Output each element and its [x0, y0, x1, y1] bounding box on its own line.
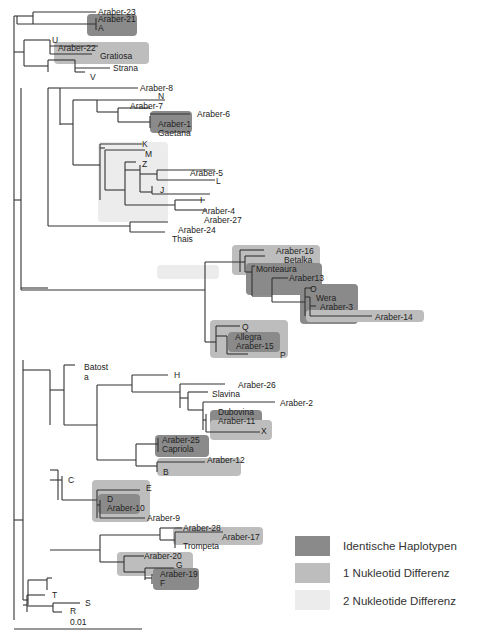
taxon-label: Araber-8 — [140, 83, 173, 93]
taxon-label: H — [174, 370, 180, 380]
legend-swatch-two-diff — [295, 590, 330, 610]
taxon-label: Araber-11 — [218, 416, 255, 426]
taxon-label: S — [85, 598, 91, 608]
taxon-label: Slavina — [212, 389, 240, 399]
taxon-label: E — [146, 483, 152, 493]
taxon-label: M — [145, 149, 152, 159]
legend: Identische Haplotypen 1 Nukleotid Differ… — [295, 536, 457, 610]
phylogenetic-tree: Araber-23Araber-21AUAraber-22GratiosaStr… — [0, 0, 486, 639]
taxon-label: Araber-3 — [320, 302, 353, 312]
taxon-label: Araber-21 — [98, 14, 136, 24]
taxon-label: N — [158, 91, 164, 101]
taxon-label: Strana — [113, 63, 138, 73]
taxon-label: F — [160, 578, 165, 588]
taxon-label: Araber-9 — [147, 513, 180, 523]
legend-label-one-diff: 1 Nukleotid Differenz — [343, 567, 450, 579]
taxon-label: R — [70, 606, 76, 616]
taxon-label: B — [163, 467, 169, 477]
legend-label-identical: Identische Haplotypen — [343, 540, 457, 552]
taxon-label: Gratiosa — [100, 51, 132, 61]
taxon-label: L — [216, 176, 221, 186]
taxon-label: Araber-12 — [207, 455, 245, 465]
taxon-label: Araber-7 — [130, 101, 163, 111]
taxon-label: Araber-17 — [222, 532, 260, 542]
legend-label-two-diff: 2 Nukleotide Differenz — [343, 595, 456, 607]
taxon-label: Q — [242, 322, 249, 332]
taxon-label: C — [68, 475, 74, 485]
taxon-label: V — [90, 72, 96, 82]
taxon-label: T — [52, 590, 57, 600]
taxon-label: Araber13 — [289, 273, 324, 283]
taxon-label: Araber-19 — [160, 569, 198, 579]
taxon-label: a — [84, 372, 89, 382]
taxon-label: X — [261, 426, 267, 436]
taxon-label: Thais — [172, 234, 193, 244]
box-kmz-group — [98, 142, 168, 222]
taxon-label: Araber-6 — [197, 109, 230, 119]
taxon-label: Batost — [84, 362, 109, 372]
taxon-label: Trompeta — [183, 541, 219, 551]
legend-swatch-one-diff — [295, 563, 330, 583]
taxon-label: I — [200, 195, 202, 205]
box-araber28-group — [157, 265, 219, 279]
taxon-label: Araber-15 — [236, 341, 274, 351]
taxon-label: Capriola — [162, 444, 194, 454]
taxon-label: K — [142, 139, 148, 149]
taxon-label: P — [280, 350, 286, 360]
taxon-label: Araber-28 — [183, 523, 221, 533]
taxon-label: A — [98, 23, 104, 33]
taxon-label: Z — [142, 159, 147, 169]
taxon-label: Araber-14 — [375, 312, 413, 322]
scale-bar-label: 0.01 — [70, 617, 87, 627]
taxon-label: Araber-2 — [280, 398, 313, 408]
taxon-label: Araber-27 — [204, 215, 242, 225]
legend-swatch-identical — [295, 536, 330, 556]
taxon-label: Araber-10 — [107, 503, 145, 513]
taxon-label: Gaetana — [158, 128, 191, 138]
taxon-label: Araber-22 — [58, 43, 96, 53]
taxon-label: Araber-26 — [238, 380, 276, 390]
taxon-label: J — [160, 185, 164, 195]
